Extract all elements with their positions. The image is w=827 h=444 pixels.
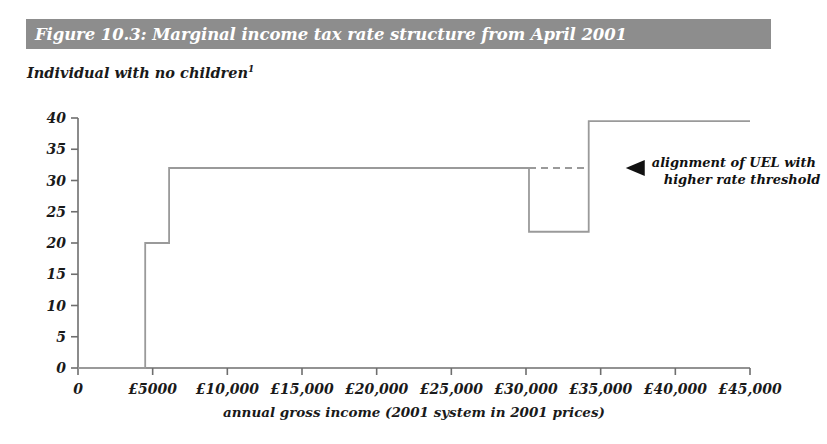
x-tick-label: £35,000 (569, 381, 633, 397)
y-axis-ticks: 0510152025303540 (46, 110, 78, 376)
x-tick-label: £45,000 (718, 381, 782, 397)
annotation-line-2: higher rate threshold (664, 172, 821, 187)
x-tick-label: 0 (73, 381, 83, 397)
y-tick-label: 20 (46, 235, 67, 251)
chart-svg: 0510152025303540 0£5000£10,000£15,000£20… (0, 0, 827, 444)
chart-plot-area: 0510152025303540 0£5000£10,000£15,000£20… (0, 0, 827, 444)
figure-container: Figure 10.3: Marginal income tax rate st… (0, 0, 827, 444)
y-tick-label: 25 (46, 204, 66, 220)
y-tick-label: 5 (56, 329, 66, 345)
annotation-line-1: alignment of UEL with (652, 155, 816, 170)
x-axis-ticks: 0£5000£10,000£15,000£20,000£25,000£30,00… (73, 368, 782, 397)
x-axis-title: annual gross income (2001 system in 2001… (223, 404, 605, 420)
y-tick-label: 0 (56, 360, 66, 376)
y-tick-label: 10 (47, 298, 67, 314)
x-tick-label: £40,000 (644, 381, 708, 397)
tax-rate-step-line (78, 121, 750, 368)
y-tick-label: 40 (47, 110, 67, 126)
x-tick-label: £20,000 (345, 381, 409, 397)
x-tick-label: £30,000 (494, 381, 558, 397)
x-tick-label: £15,000 (270, 381, 334, 397)
y-tick-label: 15 (47, 266, 66, 282)
x-tick-label: £10,000 (196, 381, 260, 397)
x-tick-label: £25,000 (420, 381, 484, 397)
x-tick-label: £5000 (128, 381, 177, 397)
y-tick-label: 35 (47, 141, 66, 157)
annotation-arrow-icon (626, 160, 645, 176)
y-tick-label: 30 (47, 173, 67, 189)
